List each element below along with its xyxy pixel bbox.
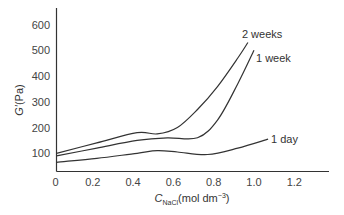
series-label-1-week: 1 week bbox=[256, 52, 291, 64]
x-axis-label: CNaCl(mol dm−3) bbox=[155, 192, 230, 206]
series-label-1-day: 1 day bbox=[271, 133, 298, 145]
axes bbox=[57, 8, 330, 172]
y-axis-label-units: (Pa) bbox=[13, 84, 25, 105]
x-tick-label: 1.0 bbox=[246, 176, 261, 188]
y-tick-label: 100 bbox=[32, 147, 50, 159]
series-labels: 2 weeks1 week1 day bbox=[242, 28, 299, 146]
series-line-1-day bbox=[57, 139, 269, 162]
x-tick-label: 0.2 bbox=[85, 176, 100, 188]
series-line-2-weeks bbox=[57, 43, 248, 154]
x-axis-label-exponent: −3 bbox=[218, 192, 226, 199]
y-axis-label: G′(Pa) bbox=[13, 84, 25, 115]
series-group bbox=[57, 43, 269, 163]
x-axis-label-close: ) bbox=[226, 192, 230, 204]
x-tick-label: 0.8 bbox=[206, 176, 221, 188]
y-tick-label: 200 bbox=[32, 122, 50, 134]
y-tick-label: 600 bbox=[32, 19, 50, 31]
series-line-1-week bbox=[57, 50, 255, 156]
x-tick-label: 0.6 bbox=[166, 176, 181, 188]
x-axis-label-subscript: NaCl bbox=[163, 199, 179, 206]
x-tick-label: 0.4 bbox=[125, 176, 140, 188]
series-label-2-weeks: 2 weeks bbox=[242, 28, 283, 40]
x-tick-label: 0 bbox=[52, 176, 58, 188]
y-tick-label: 500 bbox=[32, 44, 50, 56]
chart: 100200300400500600 00.20.40.60.81.01.2 2… bbox=[0, 0, 344, 215]
y-tick-label: 400 bbox=[32, 70, 50, 82]
y-tick-labels: 100200300400500600 bbox=[32, 19, 50, 160]
y-tick-label: 300 bbox=[32, 96, 50, 108]
x-tick-labels: 00.20.40.60.81.01.2 bbox=[52, 176, 302, 188]
x-tick-label: 1.2 bbox=[287, 176, 302, 188]
x-axis-label-main: C bbox=[155, 192, 163, 204]
x-axis-label-units: (mol dm bbox=[178, 192, 218, 204]
